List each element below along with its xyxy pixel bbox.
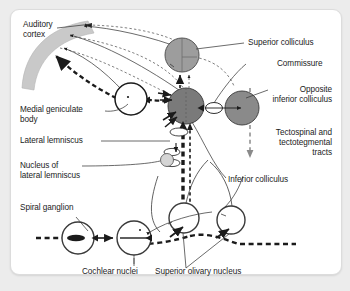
superior-olivary-nucleus-left [168,203,199,237]
label-inferior-colliculus: Inferior colliculus [228,175,288,185]
label-lateral-lemniscus: Lateral lemniscus [20,136,83,146]
medial-geniculate-body [115,83,147,115]
label-opposite-inferior-colliculus: Opposite inferior colliculus [204,85,332,105]
label-nucleus-of-lateral-lemniscus: Nucleus of lateral lemniscus [20,161,80,181]
label-tectospinal-tracts: Tectospinal and tectotegmental tracts [202,128,332,159]
label-auditory-cortex: Auditory cortex [23,20,53,40]
sc-ic-connections [180,75,189,88]
spiral-ganglion [62,222,113,254]
label-cochlear-nuclei: Cochlear nuclei [82,267,138,277]
inferior-colliculus [168,88,204,124]
superior-colliculus [165,38,199,72]
label-spiral-ganglion: Spiral ganglion [20,203,73,213]
nucleus-of-lateral-lemniscus [161,154,174,167]
label-commissure: Commissure [277,59,322,69]
cochlear-nuclei [117,221,152,264]
figure-stage: Auditory cortex Medial geniculate body L… [0,0,350,291]
label-medial-geniculate-body: Medial geniculate body [20,105,83,125]
mgb-dot [127,96,129,98]
superior-olivary-nucleus-right [216,206,245,238]
label-superior-olivary-nucleus: Superior olivary nucleus [155,267,241,277]
label-superior-colliculus: Superior colliculus [248,38,314,48]
